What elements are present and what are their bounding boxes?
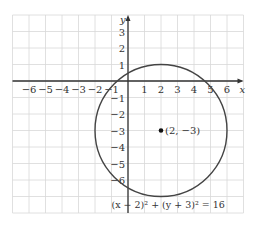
y-tick-label: −2 — [110, 109, 125, 120]
x-axis-label: x — [240, 84, 246, 95]
x-tick-label: 3 — [174, 84, 180, 95]
x-tick-label: −5 — [38, 84, 53, 95]
x-tick-label: −2 — [88, 84, 103, 95]
x-tick-label: 4 — [191, 84, 197, 95]
center-label: (2, −3) — [165, 125, 200, 136]
x-tick-label: 6 — [224, 84, 230, 95]
x-axis-arrow-icon — [238, 79, 244, 84]
coordinate-plane: xy−6−5−4−3−2−1123456321−1−2−3−4−5−6(2, −… — [0, 0, 256, 225]
y-axis-arrow-icon — [126, 15, 131, 21]
x-tick-label: −6 — [22, 84, 37, 95]
y-tick-label: −3 — [110, 126, 125, 137]
y-axis-label: y — [119, 14, 126, 25]
y-tick-label: 1 — [119, 60, 125, 71]
y-tick-label: 2 — [119, 43, 125, 54]
x-tick-label: 2 — [158, 84, 164, 95]
center-point — [159, 128, 164, 133]
equation-label: (x − 2)² + (y + 3)² = 16 — [112, 199, 225, 210]
x-tick-label: −4 — [55, 84, 70, 95]
y-tick-label: −4 — [110, 142, 125, 153]
y-tick-label: −5 — [110, 159, 125, 170]
x-tick-label: −3 — [71, 84, 86, 95]
x-tick-label: 1 — [141, 84, 147, 95]
y-tick-label: −1 — [110, 93, 125, 104]
y-tick-label: 3 — [119, 27, 125, 38]
